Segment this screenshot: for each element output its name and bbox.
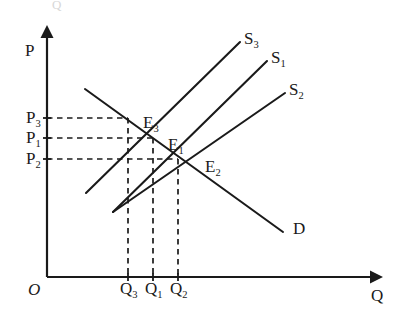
supply-curve-s2	[113, 93, 285, 212]
price-label-p3: P3	[26, 108, 41, 129]
equilibrium-label-e3: E3	[143, 113, 159, 134]
curve-label-s2: S2	[289, 80, 304, 101]
quantity-label-q2: Q2	[170, 279, 188, 300]
price-axis-labels-group: P3 P1 P2	[26, 108, 41, 170]
price-axis-label: P	[25, 41, 34, 60]
origin-label: O	[28, 280, 40, 299]
quantity-label-q3: Q3	[120, 279, 138, 300]
price-label-p2: P2	[26, 149, 41, 170]
quantity-axis-labels-group: Q3 Q1 Q2	[120, 279, 188, 300]
supply-demand-figure: Q	[0, 0, 408, 319]
curve-label-s1: S1	[271, 48, 286, 69]
equilibrium-label-e2: E2	[205, 157, 221, 178]
quantity-label-q1: Q1	[145, 279, 163, 300]
curve-labels-group: S3 S1 S2 D	[244, 29, 305, 238]
quantity-axis-label: Q	[371, 286, 383, 305]
supply-curve-s1	[113, 61, 267, 212]
supply-demand-chart: P Q O P3 P1 P2 Q3 Q1 Q2	[0, 0, 408, 319]
curve-label-s3: S3	[244, 29, 259, 50]
equilibrium-label-e1: E1	[168, 135, 184, 156]
curve-label-d: D	[293, 219, 305, 238]
price-label-p1: P1	[26, 128, 41, 149]
curves-group	[85, 42, 285, 232]
